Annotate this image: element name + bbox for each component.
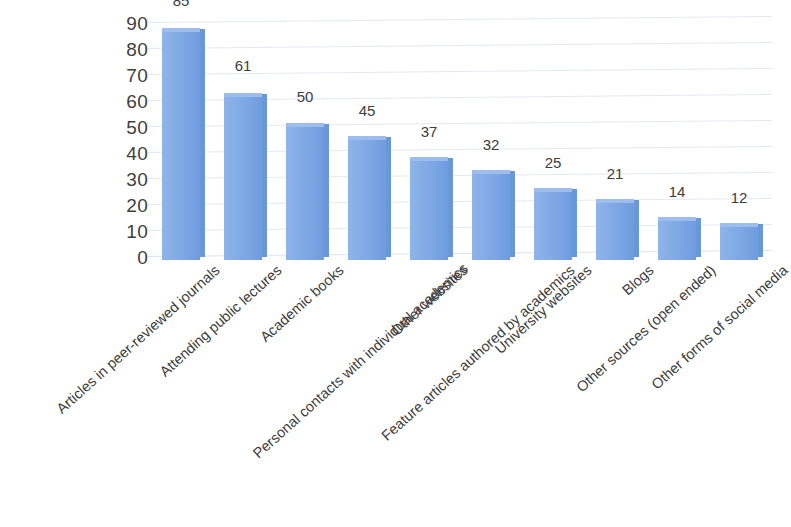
x-axis-label: Other websites	[297, 262, 471, 421]
x-axis-label: Articles in peer-reviewed journals	[49, 262, 223, 421]
bar-value-label: 12	[709, 190, 769, 205]
bar-item[interactable]: 14	[658, 12, 696, 260]
y-axis-tick: 70	[104, 66, 148, 85]
bar-top-face	[348, 136, 386, 140]
bar-side-face	[386, 137, 391, 257]
bar-body	[534, 192, 572, 260]
x-axis-label: Personal contacts with individual academ…	[250, 262, 469, 461]
y-axis-tick: 60	[104, 92, 148, 111]
bar-item[interactable]: 50	[286, 12, 324, 260]
bar-item[interactable]: 25	[534, 12, 572, 260]
bar-top-face	[224, 93, 262, 97]
bar-item[interactable]: 37	[410, 12, 448, 260]
y-axis-tick: 90	[104, 14, 148, 33]
x-axis-label: Blogs	[483, 262, 657, 421]
y-axis-tick: 80	[104, 40, 148, 59]
bar-body	[224, 97, 262, 260]
bar-value-label: 32	[461, 137, 521, 152]
bar-top-face	[286, 123, 324, 127]
bar-item[interactable]: 85	[162, 12, 200, 260]
bar-value-label: 14	[647, 184, 707, 199]
bar-body	[658, 221, 696, 260]
bar-side-face	[448, 158, 453, 257]
x-axis-label: Attending public lectures	[111, 262, 285, 421]
bar-value-label: 25	[523, 155, 583, 170]
bar-value-label: 45	[337, 103, 397, 118]
bar-top-face	[596, 199, 634, 203]
bar-body	[348, 140, 386, 260]
bar-body	[472, 174, 510, 260]
bar-side-face	[696, 218, 701, 257]
bar-body	[162, 32, 200, 260]
bar-item[interactable]: 21	[596, 12, 634, 260]
bar-value-label: 50	[275, 89, 335, 104]
bar-top-face	[472, 170, 510, 174]
bar-body	[410, 161, 448, 260]
bar-side-face	[572, 189, 577, 257]
x-axis-label: Other sources (open ended)	[545, 262, 719, 421]
bar-body	[720, 227, 758, 260]
bar-top-face	[162, 28, 200, 32]
bar-value-label: 37	[399, 124, 459, 139]
bar-value-label: 61	[213, 58, 273, 73]
bar-side-face	[324, 124, 329, 257]
bar-item[interactable]: 32	[472, 12, 510, 260]
bar-side-face	[634, 200, 639, 257]
bar-top-face	[658, 217, 696, 221]
bar-top-face	[720, 223, 758, 227]
x-axis-label: University websites	[421, 262, 595, 421]
bar-side-face	[200, 29, 205, 257]
bar-item[interactable]: 12	[720, 12, 758, 260]
bar-body	[596, 203, 634, 260]
bar-value-label: 21	[585, 166, 645, 181]
bar-item[interactable]: 45	[348, 12, 386, 260]
bar-value-label: 85	[151, 0, 211, 8]
x-axis-label: Other forms of social media	[609, 262, 791, 428]
bar-top-face	[534, 188, 572, 192]
y-axis-tick: 10	[104, 222, 148, 241]
y-axis-tick: 50	[104, 118, 148, 137]
x-axis-label: Feature articles authored by academics	[370, 262, 578, 451]
bar-body	[286, 127, 324, 260]
bar-side-face	[510, 171, 515, 257]
bar-side-face	[758, 224, 763, 257]
bar-item[interactable]: 61	[224, 12, 262, 260]
bar-series: 85 61 50 45 37	[148, 8, 770, 260]
y-axis-tick: 40	[104, 144, 148, 163]
y-axis: 90 80 70 60 50 40 30 20 10 0	[104, 0, 148, 270]
y-axis-tick: 0	[104, 248, 148, 267]
y-axis-tick: 30	[104, 170, 148, 189]
y-axis-tick: 20	[104, 196, 148, 215]
bar-top-face	[410, 157, 448, 161]
bar-side-face	[262, 94, 267, 257]
x-axis-label: Academic books	[173, 262, 347, 421]
